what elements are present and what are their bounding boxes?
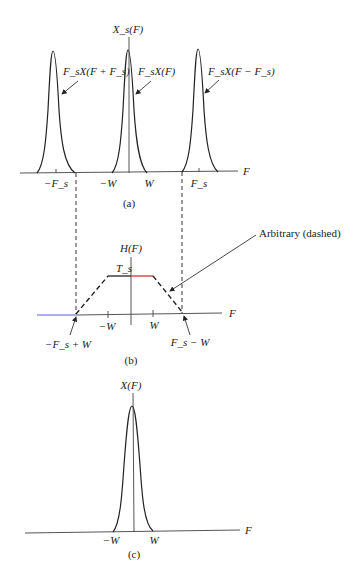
tick-neg-w-c: −W xyxy=(103,534,120,546)
panel-c: X(F) F −W W (c) xyxy=(25,379,252,561)
caption-a: (a) xyxy=(123,197,136,210)
tick-neg-fs: −F_s xyxy=(44,177,68,189)
tick-neg-w-a: −W xyxy=(100,177,117,189)
arrow-neg-fs-plus-w xyxy=(70,317,76,335)
arrow-center-replica xyxy=(136,81,151,94)
label-replica-left: F_sX(F + F_s) xyxy=(62,65,130,78)
x-label-f-a: F xyxy=(242,165,250,177)
x-label-f-b: F xyxy=(228,307,236,319)
arrow-right-replica xyxy=(205,80,219,93)
y-axis-c xyxy=(133,393,134,532)
tick-fs: F_s xyxy=(190,177,208,189)
level-label-ts: T_s xyxy=(116,262,132,274)
label-fs-minus-w: F_s − W xyxy=(170,336,210,348)
label-arbitrary: Arbitrary (dashed) xyxy=(259,227,341,240)
caption-b: (b) xyxy=(125,354,138,367)
arrow-left-replica xyxy=(62,81,78,94)
f-axis-c xyxy=(25,530,240,533)
label-neg-fs-plus-w: −F_s + W xyxy=(45,338,92,350)
panel-b: H(F) T_s Arbitrary (dashed) F −W W −F_s … xyxy=(37,227,341,367)
tick-w-c: W xyxy=(149,534,159,546)
x-label-f-c: F xyxy=(244,524,252,536)
transition-left-dashed xyxy=(76,276,108,314)
label-replica-right: F_sX(F − F_s) xyxy=(207,65,275,78)
tick-w-b: W xyxy=(149,319,159,331)
y-label-h: H(F) xyxy=(119,242,142,255)
sampling-spectrum-diagram: X_s(F) F_sX(F + F_s) F_sX(F) F_sX(F − F_… xyxy=(0,0,361,580)
transition-right-dashed xyxy=(153,276,183,313)
arrow-fs-minus-w xyxy=(184,316,190,335)
tick-w-a: W xyxy=(144,177,154,189)
panel-a: X_s(F) F_sX(F + F_s) F_sX(F) F_sX(F − F_… xyxy=(20,23,275,210)
y-label-x: X(F) xyxy=(120,379,142,392)
f-axis-b xyxy=(76,313,222,315)
caption-c: (c) xyxy=(128,548,141,561)
label-replica-center: F_sX(F) xyxy=(137,65,176,78)
tick-neg-w-b: −W xyxy=(99,320,116,332)
y-label-xs: X_s(F) xyxy=(112,23,144,36)
arrow-arbitrary xyxy=(170,235,256,291)
